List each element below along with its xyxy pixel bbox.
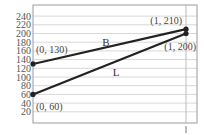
- data-point: [30, 61, 35, 66]
- gridlines: [33, 16, 197, 112]
- series-label-l: L: [113, 66, 120, 78]
- data-point: [30, 92, 35, 97]
- y-tick-label: 240: [16, 11, 31, 22]
- line-chart: 20406080100120140160180200220240 BL (0, …: [0, 0, 204, 135]
- series-lines: BL: [30, 27, 188, 97]
- point-annotation: (0, 130): [36, 44, 68, 56]
- point-annotation: (0, 60): [36, 101, 63, 113]
- data-point: [183, 31, 188, 36]
- point-annotation: (1, 210): [150, 15, 182, 27]
- point-annotations: (0, 130)(1, 210)(1, 200)(0, 60): [36, 15, 196, 113]
- series-label-b: B: [102, 36, 109, 48]
- y-axis-ticks: 20406080100120140160180200220240: [16, 11, 31, 118]
- point-annotation: (1, 200): [164, 41, 196, 53]
